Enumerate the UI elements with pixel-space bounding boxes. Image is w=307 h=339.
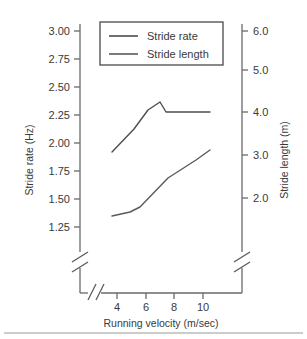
y-right-label-2: 4.0 xyxy=(253,106,268,118)
y-axis-right-title: Stride length (m) xyxy=(278,121,290,199)
y-right-label-1: 3.0 xyxy=(253,149,268,161)
y-right-label-0: 2.0 xyxy=(253,192,268,204)
x-label-0: 4 xyxy=(114,301,120,313)
x-label-2: 8 xyxy=(171,301,177,313)
x-axis-title: Running velocity (m/sec) xyxy=(104,317,219,329)
x-label-3: 10 xyxy=(197,301,209,313)
y-left-label-6: 2.75 xyxy=(49,53,70,65)
y-left-label-5: 2.50 xyxy=(49,81,70,93)
y-right-label-3: 5.0 xyxy=(253,64,268,76)
y-right-label-4: 6.0 xyxy=(253,25,268,37)
y-left-label-7: 3.00 xyxy=(49,25,70,37)
chart-figure: 3.00 2.75 2.50 2.25 2.00 1.75 1.50 1.25 … xyxy=(0,0,307,339)
series-line-stride-rate xyxy=(112,102,210,152)
data-series-group xyxy=(112,102,210,216)
x-label-1: 6 xyxy=(143,301,149,313)
legend-label-stride-rate: Stride rate xyxy=(147,30,198,42)
legend-label-stride-length: Stride length xyxy=(147,48,209,60)
y-left-label-1: 1.50 xyxy=(49,193,70,205)
y-axis-left-tick-labels: 3.00 2.75 2.50 2.25 2.00 1.75 1.50 1.25 xyxy=(49,25,70,233)
x-axis-ticks xyxy=(117,293,203,299)
y-axis-right-tick-labels: 6.0 5.0 4.0 3.0 2.0 xyxy=(253,25,268,204)
y-axis-left-title: Stride rate (Hz) xyxy=(23,124,35,195)
x-axis-tick-labels: 4 6 8 10 xyxy=(114,301,209,313)
y-left-label-0: 1.25 xyxy=(49,221,70,233)
y-left-label-3: 2.00 xyxy=(49,137,70,149)
break-bottom-slash-1 xyxy=(88,284,96,300)
stride-chart-svg: 3.00 2.75 2.50 2.25 2.00 1.75 1.50 1.25 … xyxy=(0,0,307,339)
break-bottom-slash-2 xyxy=(96,284,104,300)
legend: Stride rate Stride length xyxy=(100,22,223,65)
break-right-lower-slash xyxy=(234,252,250,262)
break-left-lower-slash xyxy=(72,252,88,262)
series-line-stride-length xyxy=(112,150,210,216)
y-left-label-4: 2.25 xyxy=(49,109,70,121)
y-left-label-2: 1.75 xyxy=(49,165,70,177)
y-axis-left-ticks xyxy=(74,31,80,227)
y-axis-right-ticks xyxy=(242,31,248,198)
